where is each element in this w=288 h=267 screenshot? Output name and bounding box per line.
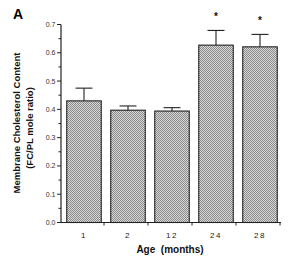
x-axis-title: Age (months) (136, 244, 203, 255)
y-tick-label: 0.0 (46, 219, 56, 226)
y-tick-label: 0.7 (46, 21, 56, 28)
significance-asterisk: * (258, 15, 262, 26)
x-tick-label: 1 (81, 231, 87, 240)
bar (199, 45, 234, 222)
significance-asterisk: * (214, 11, 218, 22)
bar-24: * (199, 11, 234, 222)
x-tick-label: 12 (166, 231, 178, 240)
panel-label: A (13, 6, 23, 22)
y-axis-title-line1: Membrane Cholesterol Content (11, 52, 22, 194)
bar-12 (155, 108, 190, 223)
y-tick-label: 0.2 (46, 162, 56, 169)
y-tick-label: 0.1 (46, 191, 56, 198)
y-axis: 0.00.10.20.30.40.50.60.7 (46, 21, 61, 226)
y-axis-title: Membrane Cholesterol Content (FC/PL mole… (11, 52, 35, 194)
bar (243, 47, 278, 223)
y-tick-label: 0.5 (46, 78, 56, 85)
bar-28: * (243, 15, 278, 222)
bar-2 (111, 106, 146, 223)
bar-1 (67, 88, 102, 222)
bar (111, 110, 146, 222)
bar-chart: A Membrane Cholesterol Content (FC/PL mo… (0, 0, 288, 267)
y-tick-label: 0.6 (46, 49, 56, 56)
y-tick-label: 0.3 (46, 134, 56, 141)
y-axis-title-line2: (FC/PL mole ratio) (24, 87, 35, 169)
bars: ** (67, 11, 278, 222)
x-tick-label: 28 (254, 231, 266, 240)
x-tick-label: 2 (125, 231, 131, 240)
bar (155, 111, 190, 222)
x-axis: 12122428 (61, 223, 281, 241)
y-tick-label: 0.4 (46, 106, 56, 113)
x-tick-label: 24 (210, 231, 222, 240)
bar (67, 101, 102, 223)
